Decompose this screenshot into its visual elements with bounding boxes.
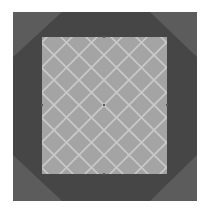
diagram-canvas: [0, 0, 209, 212]
marker-left-mid: [41, 104, 43, 106]
marker-top-mid: [103, 36, 105, 38]
marker-center: [103, 104, 105, 106]
marker-right-mid: [166, 104, 168, 106]
nested-shapes-diagram: [0, 0, 209, 212]
marker-bottom-mid: [103, 173, 105, 175]
